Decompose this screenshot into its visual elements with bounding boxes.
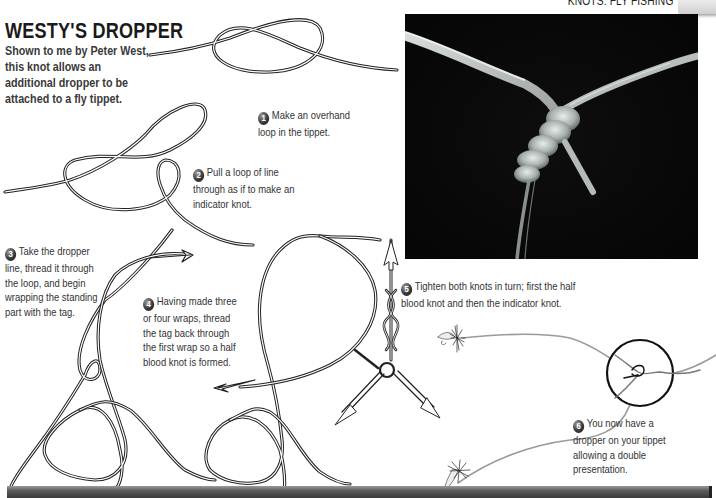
diagram-step-1 (150, 20, 397, 72)
step-number-badge: 5 (401, 283, 412, 296)
step-5: 5Tighten both knots in turn; first the h… (401, 279, 599, 311)
step-4: 4Having made three or four wraps, thread… (143, 294, 239, 369)
knot-photo-image (405, 14, 698, 259)
step-text: Tighten both knots in turn; first the ha… (401, 280, 575, 309)
step-text: Having made three or four wraps, thread … (143, 295, 237, 368)
step-text: Make an overhand loop in the tippet. (258, 109, 350, 138)
diagram-step-5 (335, 240, 440, 425)
step-6: 6You now have a dropper on your tippet a… (573, 416, 676, 477)
step-2: 2Pull a loop of line through as if to ma… (193, 165, 296, 211)
step-number-badge: 4 (143, 298, 154, 311)
step-text: You now have a dropper on your tippet al… (573, 417, 666, 475)
step-number-badge: 6 (573, 420, 584, 433)
step-text: Pull a loop of line through as if to mak… (193, 166, 294, 210)
step-3: 3Take the dropper line, thread it throug… (5, 244, 100, 319)
step-number-badge: 1 (258, 112, 269, 125)
knot-photo (405, 14, 698, 259)
step-1: 1Make an overhand loop in the tippet. (258, 108, 361, 140)
step-number-badge: 2 (193, 169, 204, 182)
step-number-badge: 3 (5, 248, 16, 261)
dry-fly-icon (438, 325, 465, 352)
footer-bar (7, 486, 710, 498)
knot-instruction-page: KNOTS: FLY FISHING WESTY'S DROPPER Shown… (0, 0, 716, 498)
step-text: Take the dropper line, thread it through… (5, 245, 98, 318)
